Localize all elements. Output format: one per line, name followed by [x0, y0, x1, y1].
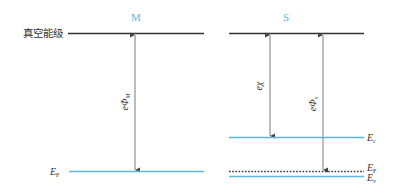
svg-text:eΦM: eΦM [119, 92, 131, 110]
semiconductor-title: S [283, 11, 289, 23]
vacuum-level-label: 真空能级 [23, 27, 64, 39]
svg-text:eχ: eχ [253, 81, 264, 90]
semiconductor-work-function-label: eΦs [307, 96, 319, 111]
metal-title: M [131, 11, 141, 23]
conduction-band-label: Ec [366, 132, 376, 144]
electron-affinity-label: eχ [253, 81, 264, 90]
svg-text:eΦs: eΦs [307, 96, 319, 111]
metal-work-function-label: eΦM [119, 92, 131, 110]
energy-band-diagram: M S 真空能级 eΦM EF eχ eΦs Ec EF Ev [0, 0, 397, 196]
metal-fermi-level-label: EF [49, 166, 60, 178]
